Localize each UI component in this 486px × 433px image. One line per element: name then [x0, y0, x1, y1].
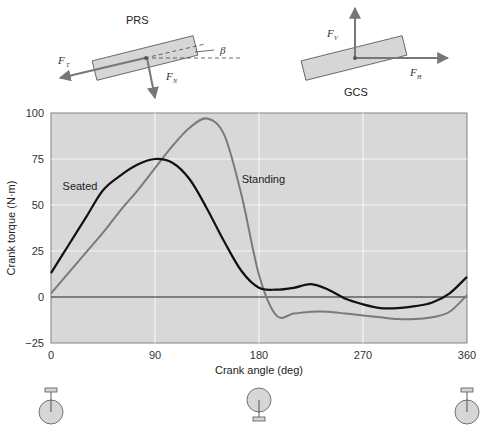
x-tick-label: 180 [250, 349, 268, 361]
fv-label: F [326, 27, 334, 39]
torque-chart: 1007550250−25 090180270360 SeatedStandin… [5, 107, 476, 376]
x-axis-label: Crank angle (deg) [215, 364, 303, 376]
x-tick-label: 270 [354, 349, 372, 361]
y-tick-label: 100 [26, 107, 44, 119]
y-axis-ticks: 1007550250−25 [25, 107, 44, 349]
angle-pointer [195, 50, 214, 52]
svg-text:V: V [334, 35, 339, 41]
y-tick-label: 0 [38, 291, 44, 303]
svg-text:H: H [416, 74, 422, 80]
y-axis-label: Crank torque (N·m) [5, 181, 17, 276]
prs-title: PRS [126, 14, 149, 26]
fn-label: F [165, 70, 173, 82]
annotation-seated: Seated [63, 180, 98, 192]
x-tick-label: 90 [149, 349, 161, 361]
crank-icon-360 [455, 388, 479, 424]
y-tick-label: −25 [25, 337, 44, 349]
x-axis-ticks: 090180270360 [48, 349, 476, 361]
y-tick-label: 50 [32, 199, 44, 211]
svg-text:N: N [172, 78, 178, 84]
crank-icon-0 [39, 388, 63, 424]
fh-label: F [409, 66, 417, 78]
x-tick-label: 360 [458, 349, 476, 361]
crank-position-icons [39, 388, 479, 424]
beta-symbol: β [219, 44, 226, 56]
gcs-title: GCS [344, 86, 368, 98]
prs-diagram: PRS β F T F N [57, 14, 240, 98]
svg-text:T: T [66, 62, 70, 68]
ft-label: F [57, 54, 65, 66]
gcs-diagram: F V F H GCS [301, 8, 448, 98]
y-tick-label: 25 [32, 245, 44, 257]
crank-icon-180 [247, 388, 271, 421]
y-tick-label: 75 [32, 153, 44, 165]
x-tick-label: 0 [48, 349, 54, 361]
figure: PRS β F T F N F V F H GCS 1007550250−25 [0, 0, 486, 433]
annotation-standing: Standing [242, 173, 285, 185]
